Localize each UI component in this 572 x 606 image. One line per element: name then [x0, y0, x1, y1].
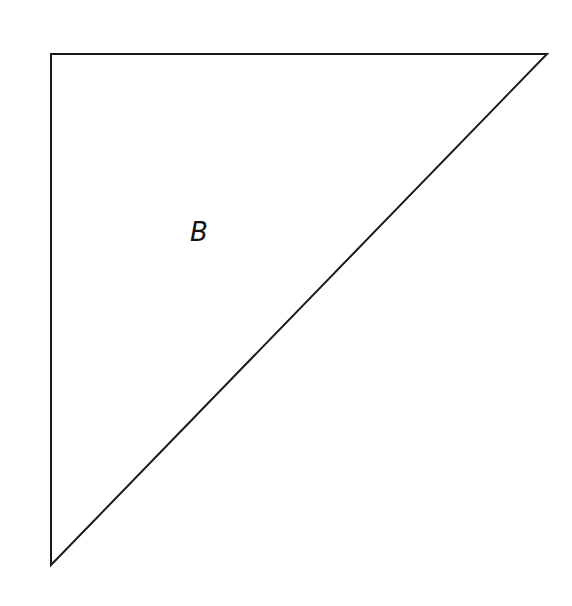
right-triangle — [51, 54, 547, 565]
triangle-label: B — [190, 217, 208, 247]
diagram-canvas: B — [0, 0, 572, 606]
